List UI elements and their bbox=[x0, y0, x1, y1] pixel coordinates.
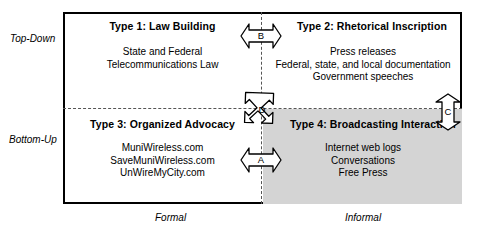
axis-label-informal: Informal bbox=[345, 212, 381, 223]
quadrant-type-4: Type 4: Broadcasting Interaction Interne… bbox=[266, 118, 460, 180]
marker-d-label: D bbox=[240, 104, 284, 115]
marker-b-horizontal-double-arrow-icon: B bbox=[238, 20, 284, 52]
marker-b-label: B bbox=[238, 30, 284, 41]
quadrant-2-title: Type 2: Rhetorical Inscription bbox=[284, 20, 460, 32]
quadrant-4-line-3: Free Press bbox=[266, 167, 460, 180]
quadrant-1-line-1: State and Federal bbox=[66, 46, 259, 59]
quadrant-3-line-1: MuniWireless.com bbox=[66, 142, 259, 155]
quadrant-2-line-1: Press releases bbox=[266, 46, 460, 59]
diagram-canvas: Type 1: Law Building State and Federal T… bbox=[0, 0, 482, 236]
marker-c-vertical-double-arrow-icon: C bbox=[432, 91, 464, 133]
quadrant-type-3: Type 3: Organized Advocacy MuniWireless.… bbox=[66, 118, 259, 180]
quadrant-type-2: Type 2: Rhetorical Inscription Press rel… bbox=[266, 20, 460, 84]
axis-label-formal: Formal bbox=[155, 212, 186, 223]
axis-label-top-down: Top-Down bbox=[10, 33, 55, 44]
axis-label-bottom-up: Bottom-Up bbox=[9, 134, 57, 145]
quadrant-2-body: Press releases Federal, state, and local… bbox=[266, 46, 460, 84]
marker-a-label: A bbox=[238, 154, 284, 165]
quadrant-1-line-2: Telecommunications Law bbox=[66, 59, 259, 72]
marker-a-horizontal-double-arrow-icon: A bbox=[238, 144, 284, 176]
quadrant-3-line-2: SaveMuniWireless.com bbox=[66, 155, 259, 168]
quadrant-4-line-2: Conversations bbox=[266, 155, 460, 168]
marker-d-diagonal-quad-arrow-icon: D bbox=[240, 88, 284, 132]
quadrant-1-title: Type 1: Law Building bbox=[66, 20, 259, 32]
quadrant-4-body: Internet web logs Conversations Free Pre… bbox=[266, 142, 460, 180]
marker-c-label: C bbox=[432, 106, 464, 117]
quadrant-3-title: Type 3: Organized Advocacy bbox=[66, 118, 259, 130]
quadrant-3-line-3: UnWireMyCity.com bbox=[66, 167, 259, 180]
quadrant-4-line-1: Internet web logs bbox=[266, 142, 460, 155]
quadrant-1-body: State and Federal Telecommunications Law bbox=[66, 46, 259, 71]
quadrant-type-1: Type 1: Law Building State and Federal T… bbox=[66, 20, 259, 71]
quadrant-3-body: MuniWireless.com SaveMuniWireless.com Un… bbox=[66, 142, 259, 180]
quadrant-2-line-3: Government speeches bbox=[266, 71, 460, 84]
quadrant-2-line-2: Federal, state, and local documentation bbox=[266, 59, 460, 72]
